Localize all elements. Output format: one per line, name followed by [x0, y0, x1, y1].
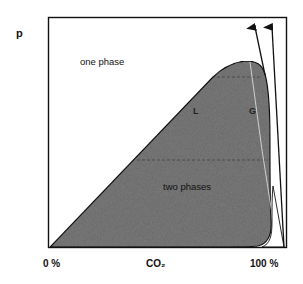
x-tick-100-percent: 100 % — [250, 258, 278, 269]
two-phase-envelope — [50, 61, 271, 247]
x-axis-label: CO₂ — [146, 258, 165, 269]
x-tick-0-percent: 0 % — [43, 258, 60, 269]
phase-diagram: p one phase L G two phases 0 % CO₂ 100 % — [0, 0, 303, 284]
y-axis-label: p — [16, 27, 23, 39]
one-phase-label: one phase — [80, 56, 124, 67]
gas-label: G — [249, 106, 256, 116]
liquid-label: L — [193, 106, 199, 116]
two-phases-label: two phases — [163, 181, 211, 192]
phase-diagram-graphic — [0, 0, 303, 284]
